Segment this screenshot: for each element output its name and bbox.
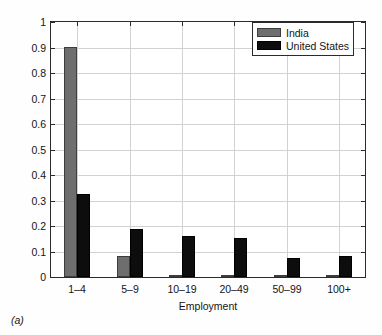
x-axis-title: Employment	[50, 300, 366, 312]
y-axis-tick	[361, 201, 365, 202]
bar-india	[326, 275, 339, 277]
y-axis-tick	[51, 175, 55, 176]
y-axis-tick	[51, 48, 55, 49]
bar-india	[274, 275, 287, 277]
bar-india	[169, 275, 182, 277]
y-gridline	[51, 124, 365, 125]
x-axis-tick-label: 100+	[327, 283, 351, 295]
x-axis-tick-label: 5–9	[121, 283, 139, 295]
y-gridline	[51, 201, 365, 202]
bar-india	[221, 275, 234, 277]
bar-united-states	[234, 238, 247, 277]
y-gridline	[51, 175, 365, 176]
y-axis-tick	[51, 252, 55, 253]
y-axis-tick	[361, 150, 365, 151]
x-axis-tick	[77, 22, 78, 26]
y-axis-tick-label: 0.1	[31, 246, 46, 258]
y-axis-tick	[361, 226, 365, 227]
legend-swatch-icon-united-states	[257, 41, 281, 50]
x-axis-tick-label: 50–99	[272, 283, 301, 295]
legend-label-united-states: United States	[286, 40, 349, 52]
figure-panel: 00.10.20.30.40.50.60.70.80.911–45–910–19…	[0, 0, 382, 335]
x-gridline	[339, 22, 340, 277]
x-axis-tick-label: 20–49	[219, 283, 248, 295]
y-gridline	[51, 150, 365, 151]
bar-india	[64, 47, 77, 277]
legend-item-united-states: United States	[257, 39, 349, 52]
y-axis-tick-label: 0.8	[31, 67, 46, 79]
y-axis-tick	[361, 22, 365, 23]
y-axis-tick	[361, 124, 365, 125]
y-axis-tick	[51, 22, 55, 23]
y-axis-tick	[361, 99, 365, 100]
y-gridline	[51, 226, 365, 227]
y-axis-tick	[51, 201, 55, 202]
figure-caption: (a)	[11, 314, 24, 326]
legend-swatch-icon-india	[257, 28, 281, 37]
bar-united-states	[287, 258, 300, 277]
x-axis-tick	[130, 22, 131, 26]
y-gridline	[51, 73, 365, 74]
bar-india	[117, 256, 130, 277]
y-axis-tick	[361, 48, 365, 49]
bar-united-states	[130, 229, 143, 277]
y-axis-tick	[361, 73, 365, 74]
chart-legend: India United States	[252, 22, 354, 56]
y-axis-tick	[51, 99, 55, 100]
y-axis-tick-label: 0.9	[31, 42, 46, 54]
y-axis-tick-label: 0.4	[31, 169, 46, 181]
x-axis-tick-label: 1–4	[68, 283, 86, 295]
y-axis-tick-label: 0.2	[31, 220, 46, 232]
y-axis-tick-label: 0.5	[31, 144, 46, 156]
x-axis-tick-label: 10–19	[167, 283, 196, 295]
bar-united-states	[77, 194, 90, 277]
y-axis-tick-label: 0.6	[31, 118, 46, 130]
y-axis-tick	[361, 252, 365, 253]
y-gridline	[51, 252, 365, 253]
y-axis-tick	[51, 150, 55, 151]
y-axis-tick-label: 0.3	[31, 195, 46, 207]
y-axis-tick	[51, 73, 55, 74]
y-axis-tick	[361, 175, 365, 176]
y-axis-tick	[51, 277, 55, 278]
y-axis-tick	[51, 124, 55, 125]
bar-united-states	[339, 256, 352, 277]
y-axis-tick-label: 0.7	[31, 93, 46, 105]
x-gridline	[287, 22, 288, 277]
y-axis-tick	[361, 277, 365, 278]
chart-plot-area: 00.10.20.30.40.50.60.70.80.911–45–910–19…	[50, 21, 366, 278]
legend-item-india: India	[257, 26, 349, 39]
x-axis-tick	[234, 22, 235, 26]
y-axis-tick-label: 1	[40, 16, 46, 28]
y-axis-tick	[51, 226, 55, 227]
bar-united-states	[182, 236, 195, 277]
legend-label-india: India	[286, 27, 309, 39]
x-axis-tick	[182, 22, 183, 26]
y-gridline	[51, 99, 365, 100]
y-axis-tick-label: 0	[40, 271, 46, 283]
